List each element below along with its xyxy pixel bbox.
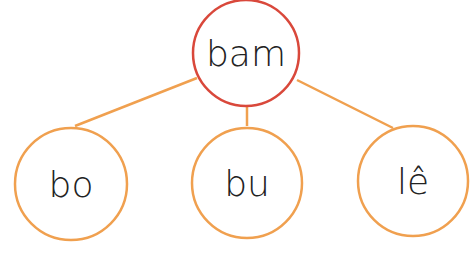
- child-node-le: lê: [358, 126, 468, 236]
- child-node-label: lê: [397, 161, 429, 202]
- root-node-label: bam: [206, 33, 286, 74]
- child-node-bo: bo: [15, 128, 127, 240]
- edge-root-to-bo: [75, 78, 197, 126]
- word-tree-diagram: bam bo bu lê: [0, 0, 475, 268]
- edge-root-to-le: [297, 80, 393, 128]
- child-node-bu: bu: [192, 128, 302, 238]
- root-node: bam: [193, 0, 299, 106]
- child-node-label: bo: [49, 164, 94, 205]
- child-node-label: bu: [224, 163, 270, 204]
